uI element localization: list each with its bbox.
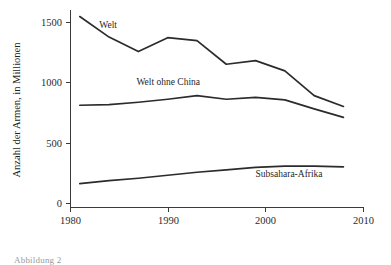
y-tick-label-500: 500 (46, 138, 62, 149)
series-label-welt-ohne-china: Welt ohne China (136, 77, 200, 87)
series-label-welt: Welt (99, 20, 117, 30)
series-line-welt (80, 17, 344, 107)
y-tick-label-1000: 1000 (41, 77, 62, 88)
x-tick-label-1980: 1980 (60, 215, 81, 226)
x-tick-label-1990: 1990 (158, 215, 179, 226)
series-line-welt-ohne-china (80, 96, 344, 118)
y-axis-title: Anzahl der Armen, in Millionen (11, 42, 22, 178)
series-labels-group: WeltWelt ohne ChinaSubsahara-Afrika (99, 20, 323, 179)
x-tick-label-2010: 2010 (353, 215, 374, 226)
x-tick-label-2000: 2000 (255, 215, 276, 226)
y-tick-label-1500: 1500 (41, 17, 62, 28)
series-label-subsahara-afrika: Subsahara-Afrika (256, 169, 324, 179)
y-axis-ticks: 050010001500 (41, 17, 70, 209)
data-series-group (80, 17, 344, 184)
y-tick-label-0: 0 (57, 198, 62, 209)
figure-caption: Abbildung 2 (14, 255, 61, 265)
x-axis-ticks: 1980199020002010 (60, 207, 374, 226)
